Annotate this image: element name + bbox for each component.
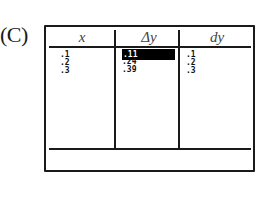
table-cell[interactable]: .3 (60, 67, 70, 75)
column-divider-1 (114, 30, 116, 150)
table-cell[interactable]: .39 (122, 66, 175, 74)
figure-label: (C) (0, 22, 28, 48)
table-cell[interactable]: .3 (186, 67, 196, 75)
entry-line (49, 151, 251, 167)
column-x: .1 .2 .3 (60, 51, 70, 75)
column-divider-2 (178, 30, 180, 150)
column-dy: .1 .2 .3 (186, 51, 196, 75)
column-header-delta-y: Δy (118, 30, 180, 46)
column-header-dy: dy (182, 30, 252, 46)
entry-line-divider (49, 148, 251, 150)
column-delta-y: .11 .24 .39 (122, 49, 175, 74)
calculator-table-screen: x Δy dy .1 .2 .3 .11 .24 .39 .1 .2 .3 (44, 25, 255, 172)
column-header-x: x (49, 30, 115, 46)
header-divider (49, 46, 251, 48)
